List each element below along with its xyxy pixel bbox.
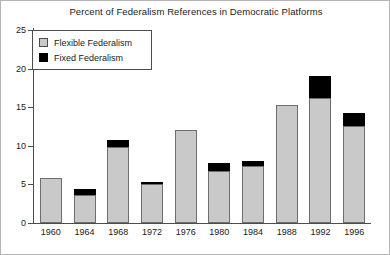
legend-label-flexible: Flexible Federalism xyxy=(54,38,132,48)
y-axis-label: 15 xyxy=(2,102,26,112)
x-axis-label-1968: 1968 xyxy=(108,227,128,237)
bar-1996 xyxy=(343,113,365,223)
bar-segment-flexible xyxy=(141,184,163,223)
legend-item-fixed-federalism: Fixed Federalism xyxy=(39,50,145,65)
y-axis-tick xyxy=(28,223,34,224)
bar-segment-fixed xyxy=(208,163,230,171)
bar-1972 xyxy=(141,183,163,223)
bar-segment-fixed xyxy=(141,182,163,184)
legend-swatch-flexible-icon xyxy=(39,38,48,47)
bar-segment-fixed xyxy=(107,140,129,147)
chart-screenshot: Percent of Federalism References in Demo… xyxy=(0,0,390,255)
y-axis-label: 5 xyxy=(2,179,26,189)
bar-segment-flexible xyxy=(208,171,230,223)
bar-segment-fixed xyxy=(74,189,96,195)
bar-segment-flexible xyxy=(276,105,298,223)
bar-1984 xyxy=(242,161,264,223)
legend-swatch-fixed-icon xyxy=(39,53,48,62)
bar-segment-fixed xyxy=(343,113,365,125)
bar-1964 xyxy=(74,189,96,223)
x-axis-label-1972: 1972 xyxy=(142,227,162,237)
bar-1960 xyxy=(40,178,62,223)
bar-segment-flexible xyxy=(107,147,129,223)
bar-segment-flexible xyxy=(175,130,197,223)
y-axis-label: 20 xyxy=(2,64,26,74)
y-axis-label: 10 xyxy=(2,141,26,151)
x-axis-line xyxy=(34,223,371,224)
bar-1976 xyxy=(175,130,197,223)
x-axis-label-1976: 1976 xyxy=(176,227,196,237)
bar-segment-fixed xyxy=(242,161,264,166)
bar-1968 xyxy=(107,140,129,223)
x-axis-label-1960: 1960 xyxy=(41,227,61,237)
chart-title: Percent of Federalism References in Demo… xyxy=(1,6,390,17)
x-axis-label-1992: 1992 xyxy=(310,227,330,237)
bar-1980 xyxy=(208,163,230,223)
bar-1988 xyxy=(276,105,298,223)
y-axis-label: 25 xyxy=(2,25,26,35)
legend-item-flexible-federalism: Flexible Federalism xyxy=(39,35,145,50)
y-axis-label: 0 xyxy=(2,218,26,228)
x-axis-label-1980: 1980 xyxy=(209,227,229,237)
bar-segment-flexible xyxy=(309,98,331,223)
x-axis-label-1996: 1996 xyxy=(344,227,364,237)
x-axis-label-1984: 1984 xyxy=(243,227,263,237)
bar-1992 xyxy=(309,76,331,223)
chart-legend: Flexible Federalism Fixed Federalism xyxy=(32,30,152,70)
x-axis-label-1964: 1964 xyxy=(75,227,95,237)
bar-segment-flexible xyxy=(40,178,62,223)
bar-segment-flexible xyxy=(242,166,264,223)
bar-segment-flexible xyxy=(343,126,365,223)
bar-segment-flexible xyxy=(74,195,96,223)
legend-label-fixed: Fixed Federalism xyxy=(54,53,123,63)
x-axis-label-1988: 1988 xyxy=(277,227,297,237)
bar-segment-fixed xyxy=(309,76,331,98)
